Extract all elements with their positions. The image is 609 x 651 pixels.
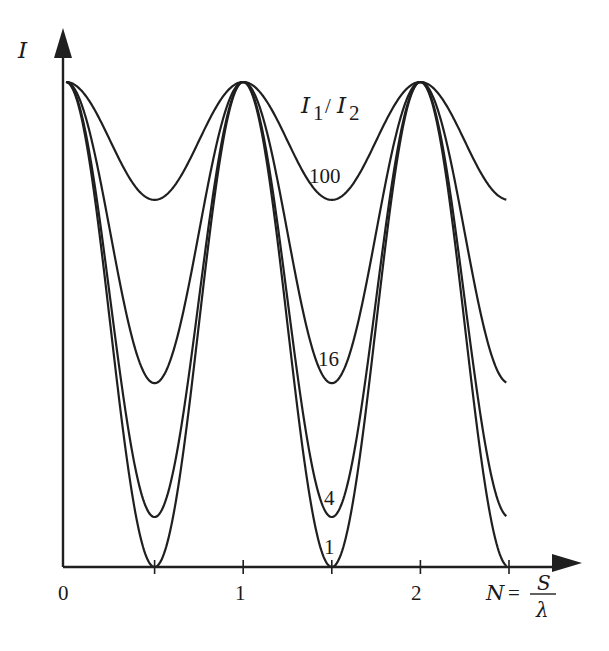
svg-text:I: I [300,92,311,118]
tick-label-1: 1 [235,581,246,605]
curve-label-1: 1 [324,535,335,559]
tick-label-2: 2 [411,581,422,605]
curve-1 [66,82,506,567]
curve-label-100: 100 [309,164,341,188]
svg-text:2: 2 [349,101,360,125]
legend-title: I 1 / I 2 [300,92,360,125]
curve-label-4: 4 [324,486,335,510]
x-axis-arrow-icon [552,554,582,572]
svg-text:I: I [336,92,347,118]
svg-text:λ: λ [535,598,549,622]
intensity-curves [66,82,506,567]
svg-text:=: = [508,581,520,605]
curve-label-16: 16 [318,347,339,371]
y-axis-label: I [17,37,28,63]
svg-text:/: / [325,94,331,118]
x-axis-label: N = S λ [485,571,556,622]
curve-4 [66,82,506,517]
y-axis-arrow-icon [54,28,72,58]
svg-text:N: N [485,581,505,605]
tick-label-0: 0 [58,581,69,605]
svg-text:1: 1 [313,101,324,125]
curve-16 [66,82,506,383]
interference-chart: I 0 1 2 N = S λ I 1 / I 2 100 16 4 1 [0,0,609,651]
svg-text:S: S [537,571,551,595]
